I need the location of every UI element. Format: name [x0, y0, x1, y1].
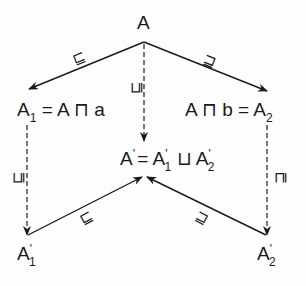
center-term1-prime: ' — [165, 147, 167, 161]
a1prime-prime: ' — [30, 242, 32, 256]
node-a2-subscript: 2 — [266, 111, 273, 125]
center-term2-base: A — [196, 148, 209, 169]
center-term1-subscript: 1 — [165, 160, 172, 174]
center-join-operator: ⊔ — [177, 148, 192, 169]
node-a1: A1 = A ⊓ a — [17, 100, 105, 119]
node-a1-base: A — [17, 99, 30, 120]
a2prime-base: A — [257, 243, 270, 264]
center-equals: = — [137, 148, 148, 169]
node-a-prime: A' = A'1 ⊔ A'2 — [120, 149, 214, 168]
center-term2-prime: ' — [208, 147, 210, 161]
a1prime-base: A — [17, 243, 30, 264]
relation-label-a2-a2prime: ⊒ — [272, 171, 287, 184]
center-term1-base: A — [153, 148, 166, 169]
node-a1-definition: = A ⊓ a — [42, 99, 105, 120]
center-prime: ' — [133, 147, 135, 161]
edge-a2-prime-to-a-prime — [147, 177, 266, 235]
center-base: A — [120, 148, 133, 169]
node-a2-prime: A'2 — [257, 244, 276, 263]
lattice-diagram: ⊑ ⊒ ⊑ ⊑ ⊒ ⊑ ⊒ A A1 = A ⊓ a A ⊓ b = A2 A'… — [0, 0, 306, 286]
node-a2-base: A — [253, 99, 266, 120]
node-a2-definition: A ⊓ b = — [185, 99, 249, 120]
relation-label-a-center: ⊑ — [128, 81, 143, 94]
center-term2-subscript: 2 — [208, 160, 215, 174]
node-a2: A ⊓ b = A2 — [185, 100, 273, 119]
relation-label-a1-a1prime: ⊑ — [10, 171, 25, 184]
node-a1-subscript: 1 — [30, 111, 37, 125]
node-a-base: A — [137, 12, 150, 33]
a2prime-subscript: 2 — [269, 255, 276, 269]
node-a1-prime: A'1 — [17, 244, 36, 263]
a1prime-subscript: 1 — [29, 255, 36, 269]
a2prime-prime: ' — [270, 242, 272, 256]
node-a: A — [137, 13, 150, 32]
